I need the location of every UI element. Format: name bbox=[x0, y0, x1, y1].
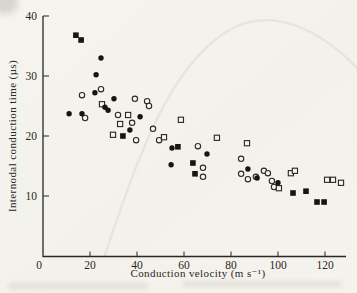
filled-circle-point bbox=[169, 145, 174, 150]
open-circle-point bbox=[133, 138, 138, 143]
open-circle-point bbox=[98, 87, 103, 92]
filled-square-point bbox=[314, 199, 320, 205]
tick-labels: 02040608010012010203040 bbox=[26, 10, 334, 271]
x-tick-label: 20 bbox=[84, 259, 96, 271]
filled-circle-point bbox=[105, 108, 110, 113]
x-tick-label: 0 bbox=[36, 259, 42, 271]
filled-circle-point bbox=[254, 175, 259, 180]
open-circle-point bbox=[238, 156, 243, 161]
x-axis-title: Conduction velocity (m s⁻¹) bbox=[130, 267, 265, 280]
open-square-point bbox=[110, 132, 115, 137]
open-square-point bbox=[161, 135, 166, 140]
open-square-point bbox=[325, 177, 330, 182]
filled-circle-point bbox=[79, 111, 84, 116]
open-circle-point bbox=[200, 174, 205, 179]
filled-circle-point bbox=[204, 151, 209, 156]
filled-circle-point bbox=[245, 166, 250, 171]
data-points bbox=[66, 32, 343, 204]
filled-circle-point bbox=[168, 162, 173, 167]
filled-circle-point bbox=[127, 127, 132, 132]
filled-circle-point bbox=[137, 114, 142, 119]
filled-circle-point bbox=[111, 96, 116, 101]
open-square-point bbox=[178, 117, 183, 122]
open-circle-point bbox=[129, 120, 134, 125]
y-tick-label: 10 bbox=[26, 190, 38, 202]
axes bbox=[43, 16, 346, 257]
filled-circle-point bbox=[93, 72, 98, 77]
filled-square-point bbox=[321, 199, 327, 205]
open-circle-point bbox=[200, 165, 205, 170]
scanned-figure: 02040608010012010203040 Conduction veloc… bbox=[0, 0, 357, 293]
open-circle-point bbox=[150, 126, 155, 131]
y-axis-title: Internodal conduction time (µs) bbox=[6, 60, 19, 212]
y-tick-label: 20 bbox=[26, 130, 38, 142]
axis-spine bbox=[43, 16, 346, 257]
open-square-point bbox=[292, 168, 297, 173]
open-circle-point bbox=[79, 93, 84, 98]
filled-square-point bbox=[303, 188, 309, 194]
open-circle-point bbox=[195, 144, 200, 149]
open-square-point bbox=[118, 121, 123, 126]
filled-square-point bbox=[190, 160, 196, 166]
scan-smudge bbox=[8, 283, 148, 289]
open-circle-point bbox=[269, 178, 274, 183]
open-circle-point bbox=[238, 171, 243, 176]
open-square-point bbox=[214, 135, 219, 140]
filled-circle-point bbox=[66, 111, 71, 116]
x-tick-label: 100 bbox=[269, 259, 287, 271]
y-tick-label: 30 bbox=[26, 70, 38, 82]
filled-circle-point bbox=[275, 180, 280, 185]
y-tick-label: 40 bbox=[26, 10, 38, 22]
open-square-point bbox=[126, 112, 131, 117]
open-square-point bbox=[276, 186, 281, 191]
scan-smudge bbox=[182, 281, 342, 287]
open-circle-point bbox=[115, 112, 120, 117]
filled-square-point bbox=[120, 133, 126, 139]
open-circle-point bbox=[132, 96, 137, 101]
filled-square-point bbox=[192, 171, 198, 177]
open-square-point bbox=[330, 177, 335, 182]
filled-square-point bbox=[73, 32, 79, 38]
filled-square-point bbox=[175, 144, 181, 150]
open-circle-point bbox=[146, 103, 151, 108]
filled-square-point bbox=[290, 190, 296, 196]
filled-square-point bbox=[78, 37, 84, 43]
scatter-plot: 02040608010012010203040 Conduction veloc… bbox=[0, 0, 357, 293]
open-square-point bbox=[244, 141, 249, 146]
scan-artifact-curve bbox=[104, 20, 357, 258]
filled-circle-point bbox=[92, 90, 97, 95]
open-circle-point bbox=[245, 177, 250, 182]
open-square-point bbox=[338, 180, 343, 185]
open-circle-point bbox=[265, 171, 270, 176]
x-tick-label: 120 bbox=[316, 259, 334, 271]
filled-circle-point bbox=[98, 55, 103, 60]
